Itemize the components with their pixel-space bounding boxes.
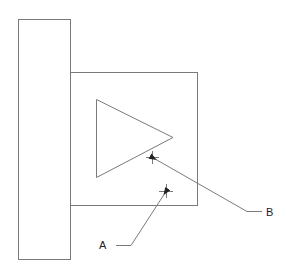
square-plate — [71, 73, 198, 206]
triangle — [97, 100, 174, 178]
tall-rectangle — [19, 20, 71, 260]
technical-drawing: B A — [0, 0, 288, 270]
marker-a-crosshair — [159, 184, 173, 198]
callout-label-a: A — [99, 239, 107, 251]
callout-a-leader — [116, 195, 164, 246]
callout-b-leader — [156, 160, 262, 212]
callout-label-b: B — [266, 206, 273, 218]
marker-b-crosshair — [146, 151, 159, 164]
